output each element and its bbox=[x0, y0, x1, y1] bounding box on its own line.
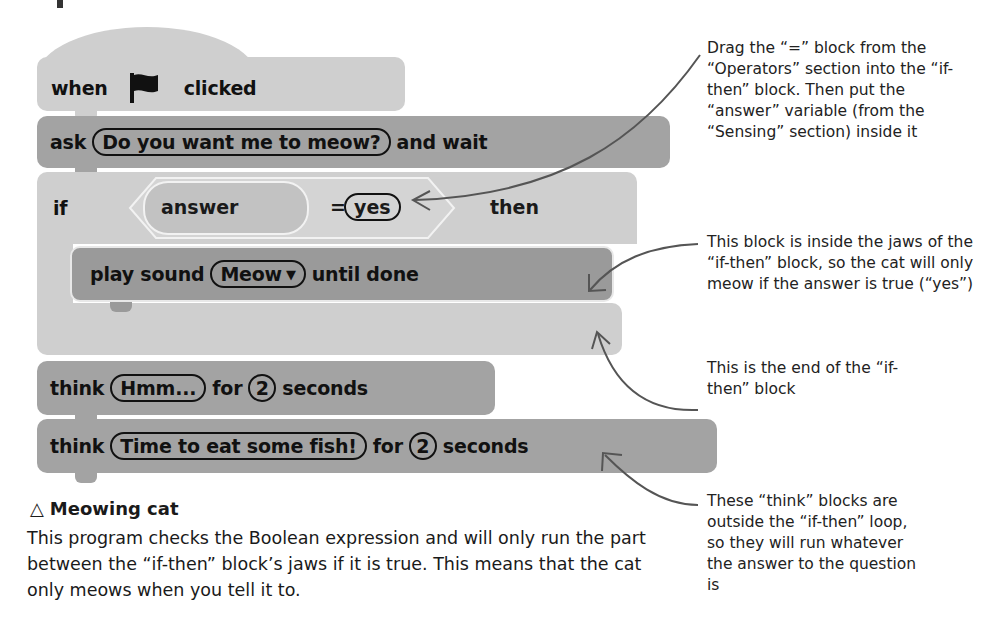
caption-title: △Meowing cat bbox=[30, 498, 179, 519]
annotation-think-outside: These “think” blocks are outside the “if… bbox=[707, 491, 922, 596]
annotation-drag-equals: Drag the “=” block from the “Operators” … bbox=[707, 38, 977, 143]
triangle-icon: △ bbox=[30, 498, 44, 519]
caption-title-text: Meowing cat bbox=[50, 498, 179, 519]
annotation-inside-jaws: This block is inside the jaws of the “if… bbox=[707, 232, 977, 295]
annotation-end-of-if: This is the end of the “if-then” block bbox=[707, 358, 917, 400]
caption-body: This program checks the Boolean expressi… bbox=[27, 525, 667, 603]
